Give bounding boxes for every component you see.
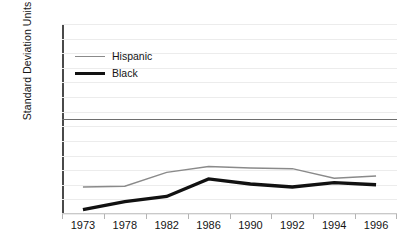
- x-axis-tick-label: 1992: [269, 220, 315, 231]
- legend-swatch-hispanic-icon: [75, 56, 105, 57]
- x-axis-tick-mark: [188, 214, 189, 219]
- x-axis-tick-mark: [271, 214, 272, 219]
- legend-item-black: Black: [75, 65, 205, 82]
- x-axis-tick-label: 1982: [144, 220, 190, 231]
- series-line-black: [83, 179, 376, 210]
- x-axis-tick-mark: [313, 214, 314, 219]
- x-axis-tick-mark: [146, 214, 147, 219]
- legend-swatch-black-icon: [75, 72, 105, 75]
- x-axis-tick-mark: [355, 214, 356, 219]
- legend-label-black: Black: [105, 68, 138, 79]
- x-axis-tick-label: 1973: [60, 220, 106, 231]
- x-axis-tick-label: 1986: [186, 220, 232, 231]
- chart-legend: Hispanic Black: [75, 48, 205, 82]
- x-axis-tick-label: 1994: [311, 220, 357, 231]
- x-axis-tick-mark: [104, 214, 105, 219]
- legend-label-hispanic: Hispanic: [105, 51, 152, 62]
- x-axis-tick-label: 1978: [102, 220, 148, 231]
- x-axis-tick-mark: [62, 214, 63, 219]
- legend-item-hispanic: Hispanic: [75, 48, 205, 65]
- x-axis-tick-mark: [230, 214, 231, 219]
- y-axis-title: Standard Deviation Units: [18, 0, 36, 146]
- x-axis-tick-label: 1990: [227, 220, 273, 231]
- x-axis-tick-mark: [396, 214, 397, 219]
- x-axis-tick-label: 1996: [353, 220, 399, 231]
- line-chart: Standard Deviation Units 1.31.10.90.70.5…: [0, 0, 408, 250]
